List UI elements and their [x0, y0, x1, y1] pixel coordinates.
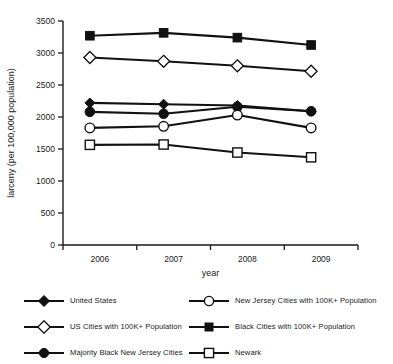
- legend-item-newark[interactable]: Newark: [187, 340, 387, 364]
- data-point-newark: [233, 148, 242, 157]
- legend-marker-filled-circle-icon: [22, 346, 66, 360]
- data-point-majority-black-new-jersey-cities: [306, 106, 316, 116]
- legend-marker-open-circle-icon: [187, 294, 231, 308]
- legend-label-newark: Newark: [231, 348, 261, 358]
- chart-legend: United States New Jersey Cities with 100…: [0, 286, 393, 364]
- series-markers-black-cities-with-100kplus-population: [86, 29, 316, 50]
- legend-item-us-cities-100k[interactable]: US Cities with 100K+ Population: [22, 314, 187, 340]
- data-point-new-jersey-cities-with-100kplus-population: [233, 110, 243, 120]
- y-axis-tick-label: 1500: [36, 144, 55, 154]
- data-point-black-cities-with-100kplus-population: [307, 41, 316, 50]
- data-point-united-states: [85, 98, 95, 108]
- data-point-us-cities-with-100kplus-population: [305, 65, 317, 77]
- plot-area: 0500100015002000250030003500200620072008…: [0, 0, 393, 282]
- y-axis-tick-label: 500: [41, 208, 55, 218]
- x-axis-tick-label: 2008: [238, 254, 257, 264]
- data-point-majority-black-new-jersey-cities: [159, 109, 169, 119]
- x-axis-title: year: [202, 268, 220, 278]
- series-black-cities-with-100kplus-population: [90, 33, 311, 45]
- chart-svg: 0500100015002000250030003500200620072008…: [0, 0, 393, 282]
- legend-marker-open-diamond-icon: [22, 320, 66, 334]
- series-new-jersey-cities-with-100kplus-population: [90, 115, 311, 128]
- larceny-line-chart-figure: 0500100015002000250030003500200620072008…: [0, 0, 393, 364]
- legend-marker-open-square-icon: [187, 346, 231, 360]
- data-point-us-cities-with-100kplus-population: [158, 55, 170, 67]
- series-line-newark: [90, 145, 311, 158]
- legend-item-united-states[interactable]: United States: [22, 288, 187, 314]
- y-axis-tick-label: 1000: [36, 176, 55, 186]
- legend-marker-filled-diamond-icon: [22, 294, 66, 308]
- series-markers-newark: [85, 140, 315, 162]
- y-axis-tick-label: 3000: [36, 48, 55, 58]
- data-point-united-states: [159, 99, 169, 109]
- y-axis-tick-label: 2500: [36, 80, 55, 90]
- x-axis-tick-label: 2006: [90, 254, 109, 264]
- data-point-us-cities-with-100kplus-population: [231, 60, 243, 72]
- data-point-black-cities-with-100kplus-population: [86, 31, 95, 40]
- data-point-new-jersey-cities-with-100kplus-population: [85, 123, 95, 133]
- data-point-majority-black-new-jersey-cities: [85, 107, 95, 117]
- y-axis-title: larceny (per 100,000 population): [6, 68, 16, 198]
- legend-label-black-cities-100k: Black Cities with 100K+ Population: [231, 322, 355, 332]
- x-axis-tick-label: 2009: [312, 254, 331, 264]
- y-axis-tick-label: 3500: [36, 16, 55, 26]
- legend-label-new-jersey-cities-100k: New Jersey Cities with 100K+ Population: [231, 296, 377, 306]
- data-point-black-cities-with-100kplus-population: [159, 29, 168, 38]
- data-point-new-jersey-cities-with-100kplus-population: [306, 123, 316, 133]
- y-axis-tick-label: 0: [50, 240, 55, 250]
- data-point-newark: [159, 140, 168, 149]
- series-line-new-jersey-cities-with-100kplus-population: [90, 115, 311, 128]
- data-point-newark: [85, 140, 94, 149]
- series-newark: [90, 145, 311, 158]
- data-point-black-cities-with-100kplus-population: [233, 33, 242, 42]
- data-point-us-cities-with-100kplus-population: [84, 51, 96, 63]
- legend-item-majority-black-nj-cities[interactable]: Majority Black New Jersey Cities: [22, 340, 187, 364]
- x-axis-tick-label: 2007: [164, 254, 183, 264]
- series-line-black-cities-with-100kplus-population: [90, 33, 311, 45]
- legend-label-majority-black-nj-cities: Majority Black New Jersey Cities: [66, 348, 183, 358]
- legend-label-united-states: United States: [66, 296, 117, 306]
- legend-item-new-jersey-cities-100k[interactable]: New Jersey Cities with 100K+ Population: [187, 288, 387, 314]
- data-point-newark: [307, 153, 316, 162]
- series-us-cities-with-100kplus-population: [90, 57, 311, 71]
- legend-label-us-cities-100k: US Cities with 100K+ Population: [66, 322, 182, 332]
- legend-marker-filled-square-icon: [187, 320, 231, 334]
- y-axis-tick-label: 2000: [36, 112, 55, 122]
- series-line-us-cities-with-100kplus-population: [90, 57, 311, 71]
- data-point-new-jersey-cities-with-100kplus-population: [159, 121, 169, 131]
- legend-item-black-cities-100k[interactable]: Black Cities with 100K+ Population: [187, 314, 387, 340]
